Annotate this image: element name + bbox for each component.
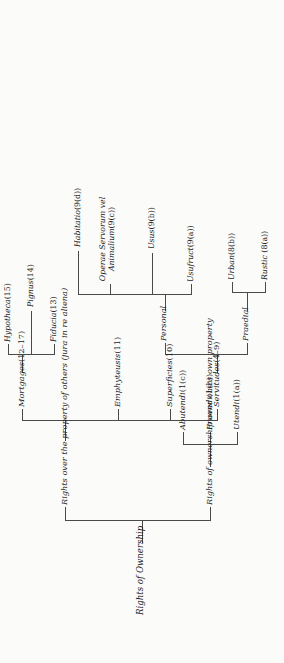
node-hypotheca: Hypotheca(15) [4,283,13,342]
connector-root-spine [65,520,210,521]
node-root: Rights of Ownership [136,526,146,615]
node-emphyteusis-ref: (11) [112,337,122,354]
node-praedial: Praedial [242,307,251,341]
connector-praedial-spine [232,292,265,293]
connector-others-spine [22,420,217,421]
connector-mortgages-to-fiducia [54,344,55,355]
connector-own-to-utendi [237,432,238,445]
connector-others-to-mortgages [22,409,23,421]
node-utendi: Utendi(1(a)) [232,379,241,430]
node-usufruct: Usufruct(9(a)) [187,225,196,282]
connector-personal-to-operae [110,284,111,295]
node-mortgages: Mortgages(12–17) [17,331,26,407]
node-usufruct-ref: (9(a)) [186,225,195,247]
connector-praedial-to-urban [232,282,233,293]
connector-personal-spine [78,294,191,295]
node-urban-ref: (8(b)) [227,233,236,255]
connector-mortgages-to-pignus [31,311,32,355]
node-operae-servorum: Operae Servorum vel Animalium(9(c)) [98,196,116,282]
rotated-chart-wrapper: Rights of Ownership Rights of ownership … [0,0,284,663]
node-emphyteusis: Emphyteusis(11) [113,337,122,407]
node-abutendi: Abutendi(1(c)) [178,370,187,430]
node-rustic: Rustic (8(a)) [261,231,270,280]
node-fiducia: Fiducia(13) [50,297,59,342]
node-usus: Usus(9(b)) [148,207,157,249]
node-rustic-ref: (8(a)) [260,231,269,253]
node-usus-ref: (9(b)) [147,207,156,229]
node-operae-ref: (9(c)) [107,207,116,229]
node-utendi-ref: (1(a)) [231,379,241,402]
node-fiducia-ref: (13) [49,297,58,313]
node-superficies-ref: (10) [164,344,174,361]
connector-servitudes-to-praedial [247,343,248,355]
node-pignus: Pignus(14) [27,264,36,307]
node-hypotheca-ref: (15) [3,283,12,299]
node-mortgages-ref: (12–17) [16,331,26,362]
node-abutendi-ref: (1(c)) [177,370,187,393]
connector-personal-to-usus [152,253,153,295]
connector-others-to-superficies [170,409,171,421]
node-habitatio-ref: (9(d)) [73,188,82,210]
connector-root-to-others [65,507,66,521]
tree-canvas: Rights of Ownership Rights of ownership … [0,0,284,663]
connector-praedial-to-rustic [265,282,266,293]
connector-personal-to-usufruct [191,284,192,295]
connector-others-to-servitudes [217,409,218,421]
node-habitatio: Habitatio(9(d)) [74,188,83,247]
node-servitudes-ref: (4–9) [211,342,221,363]
diagram-page: Rights of Ownership Rights of ownership … [0,0,284,663]
node-superficies: Superficies(10) [165,344,174,407]
connector-own-to-abutendi [183,432,184,445]
node-others-property: Rights over the property of others (jura… [60,288,69,505]
connector-mortgages-to-hypotheca [8,344,9,355]
node-pignus-ref: (14) [26,264,35,280]
node-servitudes: Servitudes(4–9) [212,342,221,407]
connector-others-to-emphyteusis [118,409,119,421]
node-personal: Personal [160,306,169,341]
connector-root-to-own [210,507,211,521]
node-urban: Urban(8(b)) [228,233,237,280]
connector-personal-to-habitatio [78,251,79,295]
